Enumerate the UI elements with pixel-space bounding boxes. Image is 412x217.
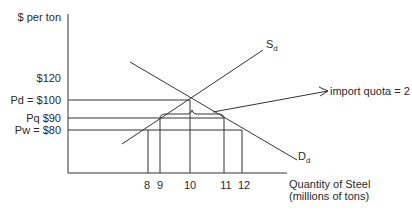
x-axis-label-line1: Quantity of Steel xyxy=(289,178,370,190)
tick-8: 8 xyxy=(144,179,150,191)
price-label-pw: Pw = $80 xyxy=(15,124,61,136)
price-label-pd: Pd = $100 xyxy=(11,94,61,106)
x-axis-label-line2: (millions of tons) xyxy=(289,190,369,202)
demand-curve xyxy=(130,62,297,160)
supply-label: Sd xyxy=(266,38,278,53)
import-quota-annotation: import quota = 2 xyxy=(330,85,410,97)
tick-12: 12 xyxy=(238,179,250,191)
price-label-120: $120 xyxy=(37,72,61,84)
tick-9: 9 xyxy=(157,179,163,191)
tick-10: 10 xyxy=(184,179,196,191)
supply-demand-diagram: $ per ton $120 Pd = $100 Pq $90 Pw = $80… xyxy=(0,0,412,217)
price-label-pq: Pq $90 xyxy=(26,112,61,124)
tick-11: 11 xyxy=(220,179,231,191)
demand-label: Dd xyxy=(298,150,310,165)
y-axis-label: $ per ton xyxy=(18,11,61,23)
annotation-arrow xyxy=(213,91,328,112)
